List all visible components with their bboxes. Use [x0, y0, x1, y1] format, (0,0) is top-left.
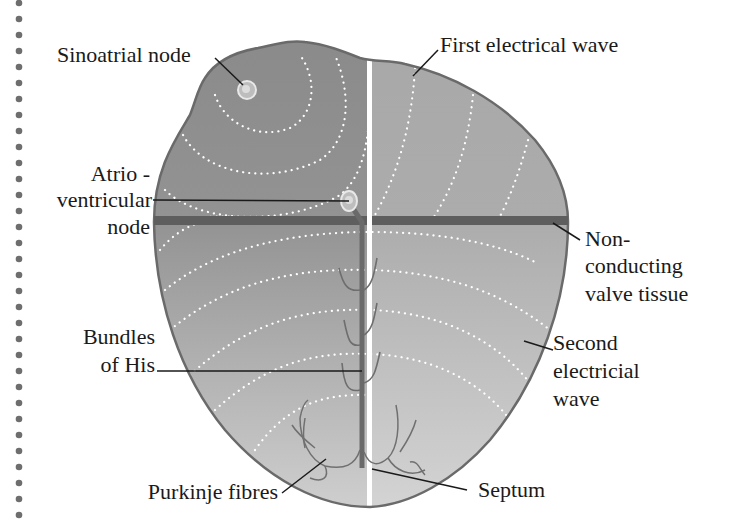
label-nonconducting-line2: conducting — [585, 253, 683, 278]
heart-left-half — [150, 30, 370, 510]
binder-dots — [16, 0, 23, 518]
label-second-wave-line2: electricial — [553, 358, 640, 383]
label-av-line2: ventricular — [57, 187, 153, 212]
label-second-wave-line3: wave — [553, 386, 599, 411]
label-av-line1: Atrio - — [91, 161, 150, 186]
label-first-electrical-wave: First electrical wave — [440, 32, 618, 57]
label-nonconducting-line3: valve tissue — [585, 281, 688, 306]
label-purkinje-fibres: Purkinje fibres — [148, 479, 278, 504]
label-second-wave-line1: Second — [553, 330, 618, 355]
heart-conduction-diagram: Sinoatrial node First electrical wave At… — [0, 0, 741, 527]
label-septum: Septum — [478, 477, 545, 502]
label-nonconducting-line1: Non- — [585, 226, 630, 251]
label-bundles-line1: Bundles — [83, 324, 155, 349]
label-av-line3: node — [107, 214, 150, 239]
label-sinoatrial-node: Sinoatrial node — [57, 42, 191, 67]
label-bundles-line2: of His — [101, 352, 155, 377]
heart-shape — [150, 30, 580, 513]
leader-av-node — [153, 200, 349, 201]
heart-right-half — [370, 30, 580, 510]
